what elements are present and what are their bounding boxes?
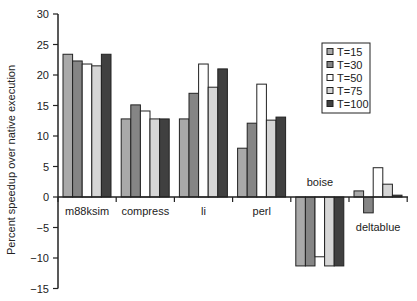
bar-boise-T30 [305,197,315,266]
legend: T=15T=30T=50T=75T=100 [322,43,370,113]
bar-m88ksim-T50 [82,64,92,197]
category-label-deltablue: deltablue [356,221,401,233]
bar-m88ksim-T100 [101,54,111,197]
y-tick-label: 20 [37,69,49,81]
legend-swatch-T50 [327,75,333,81]
legend-label: T=50 [337,72,362,84]
bar-compress-T50 [140,111,150,197]
category-label-m88ksim: m88ksim [65,205,109,217]
bar-li-T50 [199,64,209,197]
bar-deltablue-T30 [364,197,374,213]
bar-boise-T50 [315,197,325,257]
bar-m88ksim-T15 [63,54,73,197]
y-tick-label: 25 [37,39,49,51]
category-label-li: li [201,205,206,217]
category-label-perl: perl [253,205,271,217]
y-tick-label: 0 [43,191,49,203]
bar-boise-T100 [334,197,344,266]
bar-li-T15 [179,119,189,197]
legend-label: T=15 [337,46,362,58]
bar-li-T100 [218,69,228,197]
legend-swatch-T100 [327,101,333,107]
legend-label: T=100 [337,98,369,110]
bar-deltablue-T15 [354,191,364,197]
y-tick-label: −5 [36,222,49,234]
legend-swatch-T75 [327,88,333,94]
y-tick-label: −10 [30,252,49,264]
bar-li-T75 [208,87,218,197]
bar-perl-T30 [247,123,257,197]
bar-m88ksim-T75 [92,66,102,197]
y-tick-label: 30 [37,8,49,20]
bar-perl-T15 [238,148,248,197]
bar-compress-T100 [160,119,170,197]
y-tick-label: 15 [37,100,49,112]
legend-swatch-T30 [327,62,333,68]
bar-chart: 302520151050−5−10−15 m88ksimcompresslipe… [0,0,417,301]
bar-compress-T15 [121,119,131,197]
y-tick-label: 5 [43,161,49,173]
bar-perl-T50 [257,84,267,197]
bar-perl-T75 [266,120,276,197]
x-axis [58,197,408,202]
bar-compress-T75 [150,119,160,197]
y-axis: 302520151050−5−10−15 [30,8,58,295]
bar-perl-T100 [276,117,286,197]
bar-boise-T15 [296,197,306,266]
legend-label: T=75 [337,85,362,97]
bar-compress-T30 [131,105,141,197]
y-tick-label: −15 [30,283,49,295]
bar-boise-T75 [325,197,335,266]
legend-label: T=30 [337,59,362,71]
bar-deltablue-T75 [383,184,393,197]
bar-deltablue-T50 [373,168,383,197]
y-axis-title: Percent speedup over native execution [5,65,17,255]
category-labels: m88ksimcompressliperlboisedeltablue [65,176,400,233]
bar-m88ksim-T30 [73,61,83,197]
y-tick-label: 10 [37,130,49,142]
category-label-compress: compress [121,205,169,217]
bar-li-T30 [189,93,199,197]
legend-swatch-T15 [327,49,333,55]
category-label-boise: boise [307,176,333,188]
